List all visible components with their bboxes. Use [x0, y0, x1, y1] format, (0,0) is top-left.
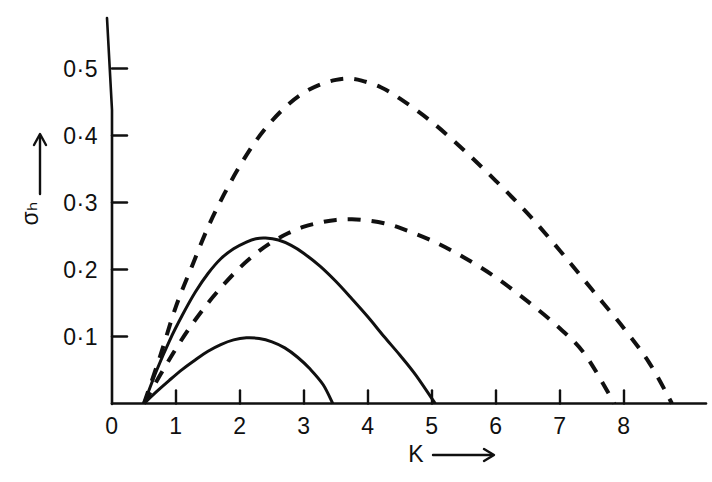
y-tick-label: 0·5	[63, 56, 98, 82]
x-tick-label: 0	[105, 413, 118, 439]
x-tick-label: 8	[617, 413, 630, 439]
x-tick-label: 1	[169, 413, 182, 439]
x-tick-label: 2	[233, 413, 246, 439]
y-tick-label: 0·3	[63, 190, 98, 216]
y-tick-label: 0·4	[63, 123, 98, 149]
x-axis-arrow-icon	[433, 449, 494, 461]
x-tick-label: 5	[425, 413, 438, 439]
data-curves	[144, 79, 672, 404]
x-tick-label: 4	[361, 413, 374, 439]
x-axis-title: K	[408, 441, 424, 467]
y-tick-label: 0·2	[63, 257, 98, 283]
axis-lines	[107, 18, 706, 404]
upper-dashed-curve	[144, 79, 672, 404]
x-axis-tick-labels: 012345678	[105, 413, 630, 439]
y-axis-title-group: σₕ	[17, 134, 46, 226]
y-axis-line	[107, 18, 112, 404]
x-axis-ticks	[176, 391, 624, 404]
y-axis-title: σₕ	[17, 202, 43, 225]
lower-dashed-curve	[144, 219, 614, 403]
x-tick-label: 7	[553, 413, 566, 439]
line-chart: 012345678 0·10·20·30·40·5 K σₕ	[0, 0, 712, 482]
x-axis-title-group: K	[408, 441, 494, 467]
y-axis-arrow-icon	[34, 134, 46, 194]
chart-figure: 012345678 0·10·20·30·40·5 K σₕ	[0, 0, 712, 482]
y-axis-ticks	[112, 69, 127, 337]
y-tick-label: 0·1	[63, 324, 98, 350]
x-tick-label: 6	[489, 413, 502, 439]
x-tick-label: 3	[297, 413, 310, 439]
y-axis-tick-labels: 0·10·20·30·40·5	[63, 56, 98, 350]
upper-solid-curve	[144, 238, 435, 404]
